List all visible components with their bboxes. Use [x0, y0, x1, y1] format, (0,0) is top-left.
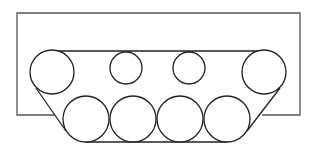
return-roller-wheel: [110, 52, 142, 84]
top-wheels: [30, 50, 286, 94]
tank-track-diagram: [0, 0, 312, 152]
drive-sprocket-wheel: [30, 50, 74, 94]
idler-wheel: [242, 50, 286, 94]
road-wheel: [204, 96, 250, 142]
road-wheel: [110, 96, 156, 142]
road-wheel: [63, 96, 109, 142]
road-wheel: [157, 96, 203, 142]
road-wheels: [63, 96, 250, 142]
return-roller-wheel: [173, 52, 205, 84]
